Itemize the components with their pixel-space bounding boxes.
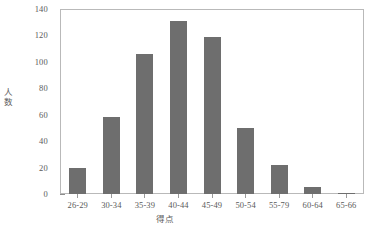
y-axis-tick-label: 140 [35,5,48,14]
x-axis-tick-label: 55-79 [262,200,296,210]
x-axis-ticks [61,194,363,198]
x-tick-slot [296,194,330,198]
x-axis-tick-label: 35-39 [128,200,162,210]
x-tick-slot [195,194,229,198]
bar-slot [330,10,364,194]
x-axis-tick [144,194,145,198]
bar [237,128,254,194]
y-axis-tick-label: 100 [35,58,48,67]
x-tick-slot [61,194,95,198]
x-axis-tick [111,194,112,198]
bar [304,187,321,194]
y-axis-tick-label: 120 [35,31,48,40]
bar-slot [195,10,229,194]
x-axis-tick [212,194,213,198]
bar [204,37,221,194]
x-axis-tick [312,194,313,198]
x-axis-title-text: 得点 [156,214,174,224]
histogram-chart: 人数 020406080100120140 26-2930-3435-3940-… [0,0,374,238]
y-axis: 020406080100120140 [0,0,56,238]
x-axis-tick [346,194,347,198]
x-axis-tick [77,194,78,198]
x-axis-tick [279,194,280,198]
bar-slot [61,10,95,194]
bar [170,21,187,194]
x-axis-tick-label: 26-29 [61,200,95,210]
bar-slot [296,10,330,194]
bar [69,168,86,194]
x-tick-slot [162,194,196,198]
x-axis-tick-label: 65-66 [330,200,364,210]
bar-slot [162,10,196,194]
bar-series [61,10,363,194]
y-axis-tick-label: 60 [39,110,48,119]
x-axis-tick [178,194,179,198]
bar-slot [128,10,162,194]
bar-slot [95,10,129,194]
bar [136,54,153,194]
x-tick-slot [262,194,296,198]
x-tick-slot [229,194,263,198]
y-axis-tick-label: 40 [39,137,48,146]
x-tick-slot [330,194,364,198]
x-axis-tick [245,194,246,198]
y-axis-tick-label: 20 [39,163,48,172]
bar [103,117,120,194]
x-axis-tick-label: 30-34 [95,200,129,210]
x-axis-tick-label: 60-64 [296,200,330,210]
y-axis-tick-label: 0 [44,190,48,199]
x-axis-tick-label: 50-54 [229,200,263,210]
y-axis-tick-label: 80 [39,84,48,93]
x-axis-tick-label: 45-49 [195,200,229,210]
x-axis-labels: 26-2930-3435-3940-4445-4950-5455-7960-64… [61,200,363,210]
x-tick-slot [95,194,129,198]
x-tick-slot [128,194,162,198]
x-axis-title: 得点 [0,214,374,224]
x-axis-tick-label: 40-44 [162,200,196,210]
bar-slot [262,10,296,194]
bar-slot [229,10,263,194]
bar [271,165,288,194]
